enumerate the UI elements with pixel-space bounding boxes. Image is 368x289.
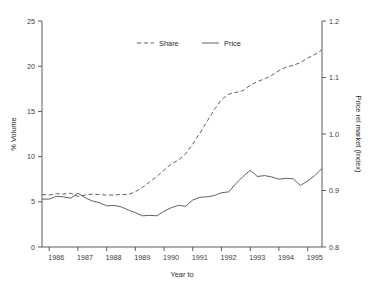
chart-container: 0510152025 % Volume 0.80.91.01.11.2 Pric… <box>0 0 368 289</box>
bottom-tick-label: 1987 <box>77 253 93 262</box>
bottom-tick-label: 1991 <box>192 253 208 262</box>
legend-label-share: Share <box>159 39 179 48</box>
left-tick-label: 5 <box>31 197 35 206</box>
line-chart: 0510152025 % Volume 0.80.91.01.11.2 Pric… <box>0 0 368 289</box>
bottom-axis: 1986198719881989199019911992199319941995… <box>42 247 323 279</box>
right-axis-title: Price rel market (Index) <box>354 96 363 173</box>
bottom-tick-label: 1993 <box>249 253 265 262</box>
right-tick-label: 0.8 <box>329 243 339 252</box>
bottom-tick-label: 1989 <box>134 253 150 262</box>
left-tick-label: 20 <box>27 62 35 71</box>
right-tick-label: 0.9 <box>329 186 339 195</box>
bottom-tick-label: 1986 <box>48 253 64 262</box>
left-axis: 0510152025 % Volume <box>9 17 42 252</box>
left-tick-label: 15 <box>27 107 35 116</box>
left-axis-title: % Volume <box>9 117 18 150</box>
left-tick-label: 10 <box>27 152 35 161</box>
series-layer <box>42 50 322 216</box>
bottom-tick-label: 1988 <box>106 253 122 262</box>
left-tick-label: 0 <box>31 243 35 252</box>
left-tick-label: 25 <box>27 17 35 26</box>
left-axis-ticks: 0510152025 <box>27 17 42 252</box>
right-axis: 0.80.91.01.11.2 Price rel market (Index) <box>322 17 363 252</box>
chart-legend: SharePrice <box>137 39 241 48</box>
series-line-share <box>42 50 322 196</box>
right-tick-label: 1.1 <box>329 73 339 82</box>
series-line-price <box>42 168 322 215</box>
bottom-tick-label: 1995 <box>307 253 323 262</box>
bottom-axis-title: Year to <box>170 270 193 279</box>
bottom-axis-ticks: 1986198719881989199019911992199319941995 <box>48 247 322 262</box>
right-tick-label: 1.0 <box>329 130 339 139</box>
legend-label-price: Price <box>224 39 241 48</box>
bottom-tick-label: 1994 <box>278 253 294 262</box>
bottom-tick-label: 1992 <box>220 253 236 262</box>
right-axis-ticks: 0.80.91.01.11.2 <box>322 17 339 252</box>
bottom-tick-label: 1990 <box>163 253 179 262</box>
right-tick-label: 1.2 <box>329 17 339 26</box>
